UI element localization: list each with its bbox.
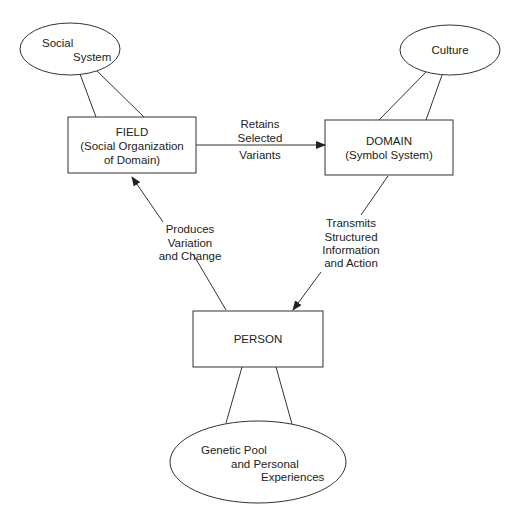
- arrow-domain-to-person-start: [361, 176, 388, 215]
- domain-subtitle: (Symbol System): [325, 148, 453, 162]
- edge-label-and-action: and Action: [306, 256, 396, 270]
- edge-label-and-change: and Change: [145, 249, 235, 263]
- culture-label: Culture: [410, 43, 490, 57]
- field-subtitle-line1: (Social Organization: [68, 139, 196, 153]
- genetic-label-line2: and Personal: [231, 457, 299, 471]
- edge-label-produces: Produces: [145, 222, 235, 236]
- genetic-label-line1: Genetic Pool: [201, 443, 267, 457]
- field-title: FIELD: [68, 125, 196, 139]
- arrow-person-to-field-head: [132, 177, 163, 222]
- genetic-label-line3: Experiences: [261, 470, 324, 484]
- edge-label-transmits: Transmits: [306, 216, 396, 230]
- edge-label-variation: Variation: [145, 236, 235, 250]
- connector-person-genetic-left: [226, 367, 242, 423]
- edge-label-selected: Selected: [220, 131, 300, 145]
- domain-title: DOMAIN: [325, 134, 453, 148]
- systems-model-diagram: Social System Culture FIELD (Social Orga…: [0, 0, 519, 521]
- arrow-domain-to-person: [293, 272, 321, 310]
- edge-label-information: Information: [306, 243, 396, 257]
- connector-culture-domain-left: [379, 72, 426, 120]
- edge-label-retains: Retains: [220, 117, 300, 131]
- social-system-label-line1: Social: [42, 36, 73, 50]
- connector-social-field-left: [80, 74, 96, 117]
- edge-label-variants: Variants: [220, 148, 300, 162]
- connector-social-field-right: [97, 71, 144, 117]
- social-system-label-line2: System: [73, 50, 111, 64]
- connector-person-genetic-right: [276, 367, 292, 424]
- person-title: PERSON: [193, 332, 323, 346]
- field-subtitle-line2: of Domain): [68, 153, 196, 167]
- edge-label-structured: Structured: [306, 230, 396, 244]
- connector-culture-domain-right: [426, 75, 442, 120]
